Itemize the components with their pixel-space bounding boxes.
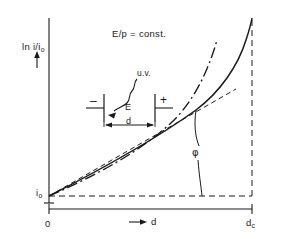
inset-uv-label: u.v. <box>137 69 151 78</box>
townsend-discharge-figure: E/p = const. ln i/io io 0 d dc φ u.v. – … <box>0 0 281 239</box>
x-axis-label: d <box>151 217 157 227</box>
phi-angle-leader-line <box>198 160 202 196</box>
phi-angle-label: φ <box>192 148 199 158</box>
tangent-line <box>49 89 236 196</box>
inset-gap-label: d <box>126 117 131 126</box>
dc-label: dc <box>246 218 255 229</box>
inset-cathode-sign: – <box>90 95 97 107</box>
plot-title: E/p = const. <box>112 29 166 39</box>
inset-gap-arrow-left-icon <box>105 123 112 128</box>
i-zero-label-subscript: o <box>38 192 42 199</box>
inset-gap-arrow-right-icon <box>147 123 154 128</box>
dc-label-subscript: c <box>252 222 256 229</box>
origin-label: 0 <box>45 219 51 229</box>
y-axis-arrow-icon <box>34 51 40 68</box>
inset-anode-sign: + <box>160 94 167 106</box>
townsend-current-curve <box>49 18 252 196</box>
phi-angle-arc <box>195 110 199 146</box>
y-axis-label-subscript: o <box>41 46 45 53</box>
uv-arrowhead-icon <box>108 113 116 119</box>
ideal-exponential-curve <box>49 40 217 196</box>
y-axis-label: ln i/io <box>22 42 45 53</box>
inset-field-label: E <box>125 103 131 112</box>
x-axis-arrow-icon <box>129 219 147 225</box>
y-axis-label-text: ln i/i <box>22 41 41 52</box>
i-zero-label: io <box>36 188 43 199</box>
